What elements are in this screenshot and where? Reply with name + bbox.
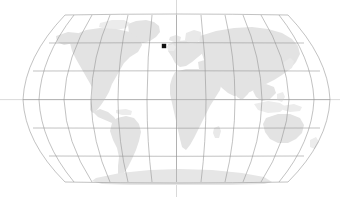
world-map-container bbox=[0, 0, 340, 197]
location-marker[interactable] bbox=[162, 44, 166, 48]
world-map-svg bbox=[0, 0, 340, 197]
